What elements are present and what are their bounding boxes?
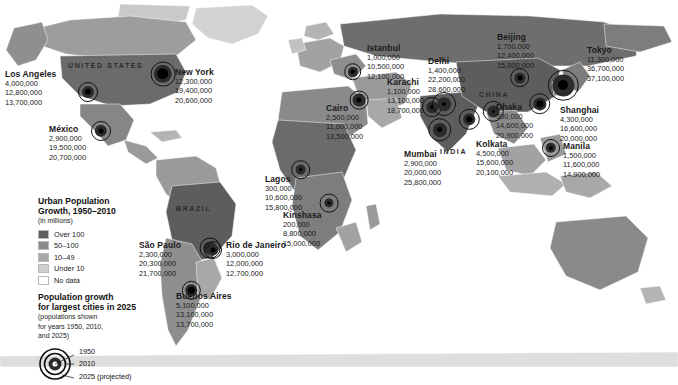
legend-label: 10–49 xyxy=(54,253,75,262)
city-marker-new-york[interactable] xyxy=(151,62,175,86)
city-name-rio-de-janeiro: Rio de Janeiro xyxy=(226,241,286,250)
city-values-tokyo: 11,300,00036,700,00037,100,000 xyxy=(587,55,624,83)
city-value: 10,600,000 xyxy=(265,193,302,202)
ring-1950 xyxy=(351,70,355,74)
legend-swatch xyxy=(38,264,49,273)
city-values-mumbai: 2,900,00020,000,00025,800,000 xyxy=(404,159,441,187)
city-marker-mumbai[interactable] xyxy=(429,119,452,142)
legend-label: No data xyxy=(54,276,80,285)
city-marker-rio-de-janeiro[interactable] xyxy=(204,241,222,259)
city-value: 14,900,000 xyxy=(563,170,600,179)
city-marker-lagos[interactable] xyxy=(292,161,311,180)
city-value: 12,400,000 xyxy=(497,51,534,60)
ring-1950 xyxy=(437,127,442,132)
country-label-india: INDIA xyxy=(440,148,467,155)
city-values-manila: 1,500,00011,600,00014,900,000 xyxy=(563,151,600,179)
city-values-rio-de-janeiro: 3,000,00012,000,00012,700,000 xyxy=(226,250,263,278)
city-value: 16,600,000 xyxy=(560,124,597,133)
city-value: 36,700,000 xyxy=(587,64,624,73)
city-name-los-angeles: Los Angeles xyxy=(5,70,56,79)
city-value: 28,600,000 xyxy=(428,85,465,94)
legend-symbol-note-line3: and 2025) xyxy=(38,332,156,340)
city-name-buenos-aires: Buenos Aires xyxy=(176,292,232,301)
legend-label: Over 100 xyxy=(54,230,84,239)
city-value: 4,500,000 xyxy=(476,149,513,158)
city-value: 14,600,000 xyxy=(496,121,533,130)
city-name-cairo: Cairo xyxy=(326,104,348,113)
legend-swatch xyxy=(38,241,49,250)
legend-row: Under 10 xyxy=(38,263,156,275)
city-marker-mxico[interactable] xyxy=(91,121,111,141)
city-marker-tokyo[interactable] xyxy=(547,69,578,100)
city-name-kolkata: Kolkata xyxy=(476,140,507,149)
city-values-dhaka: 300,00014,600,00020,900,000 xyxy=(496,112,533,140)
legend-year-2010: 2010 xyxy=(79,359,95,368)
city-values-mxico: 2,900,00019,500,00020,700,000 xyxy=(49,134,86,162)
city-marker-los-angeles[interactable] xyxy=(78,82,98,102)
ring-1950 xyxy=(328,202,331,205)
city-marker-kolkata[interactable] xyxy=(458,108,479,129)
ring-1950 xyxy=(211,248,216,253)
legend-symbol-title-line2: for largest cities in 2025 xyxy=(38,302,156,312)
legend-swatch xyxy=(38,253,49,262)
city-value: 20,000,000 xyxy=(404,168,441,177)
city-value: 2,900,000 xyxy=(404,159,441,168)
city-value: 3,000,000 xyxy=(226,250,263,259)
city-value: 13,700,000 xyxy=(176,320,213,329)
country-label-brazil: BRAZIL xyxy=(176,205,211,212)
city-marker-manila[interactable] xyxy=(542,139,560,157)
legend-symbol-diagram: 1950 2010 2025 (projected) xyxy=(38,345,156,385)
city-values-los-angeles: 4,000,00012,800,00013,700,000 xyxy=(5,79,42,107)
city-values-kinshasa: 200,0008,800,00015,000,000 xyxy=(283,220,320,248)
city-value: 20,700,000 xyxy=(49,153,86,162)
ring-1950 xyxy=(99,129,104,134)
city-marker-kinshasa[interactable] xyxy=(320,194,338,212)
city-value: 11,600,000 xyxy=(563,160,600,169)
city-marker-delhi[interactable] xyxy=(432,92,456,116)
city-marker-istanbul[interactable] xyxy=(345,64,362,81)
city-value: 20,100,000 xyxy=(476,168,513,177)
city-value: 19,500,000 xyxy=(49,143,86,152)
city-value: 200,000 xyxy=(283,220,320,229)
legend-row: 50–100 xyxy=(38,240,156,252)
city-value: 19,400,000 xyxy=(175,86,212,95)
city-value: 18,700,000 xyxy=(387,106,424,115)
city-name-dhaka: Dhaka xyxy=(496,103,522,112)
legend-label: 50–100 xyxy=(54,241,79,250)
ring-1950 xyxy=(558,80,569,91)
city-value: 8,800,000 xyxy=(283,229,320,238)
city-marker-beijing[interactable] xyxy=(511,69,530,88)
city-value: 37,100,000 xyxy=(587,74,624,83)
city-marker-cairo[interactable] xyxy=(350,91,368,109)
city-name-beijing: Beijing xyxy=(497,33,526,42)
city-values-buenos-aires: 5,100,00013,100,00013,700,000 xyxy=(176,301,213,329)
ring-1950 xyxy=(357,98,362,103)
city-name-mxico: México xyxy=(49,125,78,134)
city-name-kinshasa: Kinshasa xyxy=(283,211,322,220)
map-legend: Urban Population Growth, 1950–2010 (in m… xyxy=(38,196,156,385)
city-value: 12,000,000 xyxy=(226,259,263,268)
city-value: 13,100,000 xyxy=(176,310,213,319)
city-value: 12,300,000 xyxy=(175,77,212,86)
country-label-china: CHINA xyxy=(479,91,509,98)
city-value: 1,700,000 xyxy=(497,42,534,51)
legend-label: Under 10 xyxy=(54,264,84,273)
city-value: 13,700,000 xyxy=(5,98,42,107)
city-value: 20,600,000 xyxy=(175,96,212,105)
city-values-karachi: 1,100,00013,100,00018,700,000 xyxy=(387,87,424,115)
city-value: 15,600,000 xyxy=(476,158,513,167)
city-value: 12,700,000 xyxy=(226,269,263,278)
city-value: 22,200,000 xyxy=(428,75,465,84)
city-values-lagos: 300,00010,600,00015,800,000 xyxy=(265,184,302,212)
city-name-manila: Manila xyxy=(563,142,590,151)
city-name-tokyo: Tokyo xyxy=(587,46,612,55)
city-value: 12,800,000 xyxy=(5,88,42,97)
legend-symbol-note-line1: (populations shown xyxy=(38,313,156,321)
city-name-new-york: New York xyxy=(175,68,214,77)
legend-symbol-note-line2: for years 1950, 2010, xyxy=(38,323,156,331)
city-values-beijing: 1,700,00012,400,00015,000,000 xyxy=(497,42,534,70)
city-value: 2,900,000 xyxy=(49,134,86,143)
city-name-delhi: Delhi xyxy=(428,57,449,66)
legend-year-2025: 2025 (projected) xyxy=(79,372,131,381)
ring-1950 xyxy=(299,168,302,171)
